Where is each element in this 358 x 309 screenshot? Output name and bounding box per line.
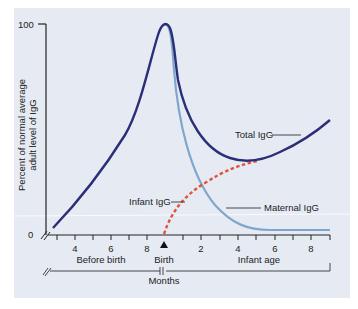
label-maternal-igg: Maternal IgG (264, 202, 319, 213)
svg-text:Percent of normal average: Percent of normal average (16, 79, 27, 191)
x-tick-label: 6 (272, 243, 277, 254)
y-tick-label-100: 100 (18, 19, 34, 30)
x-tick-label: 6 (108, 243, 113, 254)
x-tick-label: 8 (144, 243, 149, 254)
x-axis-label-months: Months (148, 275, 179, 286)
x-ticks (57, 235, 330, 240)
x-tick-label: 8 (308, 243, 313, 254)
svg-text:adult level of IgG: adult level of IgG (27, 99, 38, 170)
region-label-before-birth: Before birth (76, 254, 125, 265)
x-tick-label: 4 (235, 243, 240, 254)
series-maternal-igg (165, 25, 330, 230)
x-tick-label: 2 (198, 243, 203, 254)
igg-chart: 100 0 Percent of normal average adult le… (0, 0, 358, 309)
region-label-infant-age: Infant age (238, 254, 280, 265)
y-tick-label-0: 0 (28, 229, 33, 240)
birth-marker-icon (160, 241, 168, 248)
x-tick-label: 4 (72, 243, 77, 254)
label-infant-igg: Infant IgG (129, 196, 171, 207)
region-label-birth: Birth (154, 254, 174, 265)
label-total-igg: Total IgG (235, 129, 273, 140)
y-axis-label: Percent of normal average adult level of… (16, 79, 38, 191)
series-total-igg (53, 24, 330, 228)
